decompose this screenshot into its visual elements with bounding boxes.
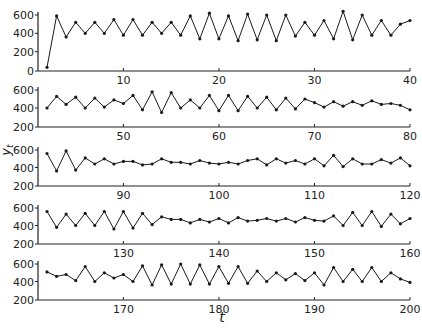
data-point [246,13,249,16]
data-point [265,280,268,283]
data-point [179,34,182,37]
data-point [294,35,297,38]
data-point [45,152,48,155]
data-point [122,34,125,37]
data-point [55,95,58,98]
data-point [55,169,58,172]
data-point [84,32,87,35]
data-point [237,216,240,219]
data-point [275,220,278,223]
data-point [256,269,259,272]
data-point [170,21,173,24]
data-point [332,37,335,40]
data-point [151,90,154,93]
data-point [179,161,182,164]
data-point [275,108,278,111]
data-point [74,21,77,24]
data-point [322,283,325,286]
data-point [361,224,364,227]
data-point [131,18,134,21]
data-point [122,102,125,105]
data-point [313,271,316,274]
data-point [313,157,316,160]
data-point [74,96,77,99]
y-tick-label: 400 [13,27,34,40]
x-tick-label: 110 [304,189,325,202]
data-point [198,218,201,221]
data-point [303,97,306,100]
data-point [399,104,402,107]
data-point [265,217,268,220]
data-point [208,162,211,165]
data-point [45,106,48,109]
data-point [361,162,364,165]
data-point [265,163,268,166]
data-point [141,163,144,166]
data-point [131,160,134,163]
data-point [217,265,220,268]
panel-3: 20040060090100110120 [13,144,421,202]
data-point [370,210,373,213]
data-point [55,226,58,229]
data-point [408,108,411,111]
data-point [151,162,154,165]
data-point [151,283,154,286]
data-point [141,212,144,215]
data-point [122,160,125,163]
data-point [227,161,230,164]
data-point [112,18,115,21]
x-tick-label: 130 [113,247,134,260]
data-point [351,268,354,271]
data-point [189,283,192,286]
data-point [389,162,392,165]
data-point [103,271,106,274]
data-point [45,66,48,69]
x-tick-label: 70 [307,130,321,143]
panel-2: 20040060050607080 [13,84,417,143]
x-tick-label: 120 [400,189,421,202]
data-point [160,157,163,160]
x-tick-label: 150 [304,247,325,260]
data-point [189,14,192,17]
y-tick-label: 400 [13,220,34,233]
data-point [65,213,68,216]
data-point [370,34,373,37]
data-point [380,19,383,22]
data-point [141,108,144,111]
y-tick-label: 400 [13,102,34,115]
data-point [332,266,335,269]
data-point [275,39,278,42]
data-point [198,263,201,266]
data-point [408,19,411,22]
data-point [84,156,87,159]
data-point [275,271,278,274]
y-tick-label: 600 [13,84,34,97]
data-point [284,217,287,220]
y-axis-label: yt [0,144,15,157]
data-point [370,99,373,102]
data-point [122,210,125,213]
x-tick-label: 140 [208,247,229,260]
data-point [246,220,249,223]
data-point [227,282,230,285]
data-point [399,156,402,159]
data-point [122,273,125,276]
data-point [84,265,87,268]
data-point [151,21,154,24]
data-point [189,98,192,101]
data-point [246,159,249,162]
y-tick-label: 200 [13,294,34,307]
data-point [408,217,411,220]
data-point [55,275,58,278]
data-point [112,162,115,165]
data-point [380,158,383,161]
data-point [217,217,220,220]
data-point [399,222,402,225]
data-point [370,162,373,165]
data-point [313,34,316,37]
x-tick-label: 100 [208,189,229,202]
data-point [246,95,249,98]
data-point [93,224,96,227]
data-point [141,264,144,267]
data-point [112,227,115,230]
